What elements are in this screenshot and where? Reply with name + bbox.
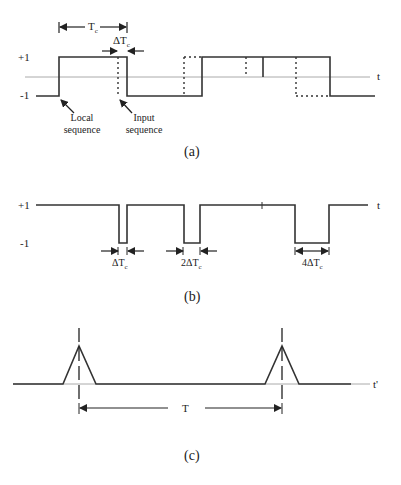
product-sequence xyxy=(36,205,368,243)
gap-label-4: 4ΔTc xyxy=(302,258,323,271)
axis-label-b: t xyxy=(377,200,380,211)
panel-a xyxy=(25,22,375,113)
gap-label-1: ΔTc xyxy=(112,258,128,271)
tc-label: Tc xyxy=(88,21,98,35)
gap-label-2: 2ΔTc xyxy=(181,258,202,271)
minus-one-label-a: -1 xyxy=(20,90,29,101)
plus-one-label-a: +1 xyxy=(18,52,30,63)
panel-c xyxy=(13,328,370,414)
axis-label-a: t xyxy=(377,71,380,82)
local-sequence-label: Localsequence xyxy=(62,112,102,135)
caption-c: (c) xyxy=(184,449,200,463)
caption-a: (a) xyxy=(184,145,200,159)
figure-canvas xyxy=(0,0,401,485)
input-sequence-label: Inputsequence xyxy=(122,112,166,135)
axis-label-c: t' xyxy=(373,379,378,390)
period-label: T xyxy=(182,403,189,414)
minus-one-label-b: -1 xyxy=(20,238,29,249)
panel-b xyxy=(36,202,368,255)
delta-tc-label: ΔTc xyxy=(113,35,130,49)
plus-one-label-b: +1 xyxy=(18,200,30,211)
caption-b: (b) xyxy=(184,290,200,304)
correlation-output xyxy=(13,346,351,384)
